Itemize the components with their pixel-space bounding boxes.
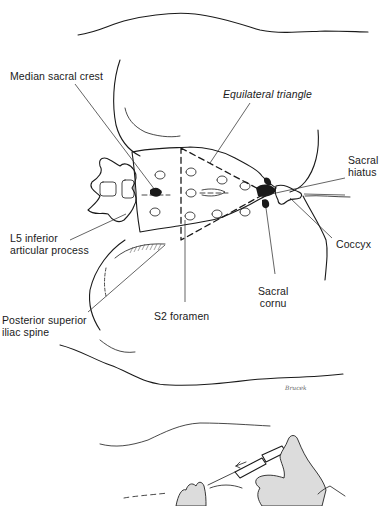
foramen xyxy=(186,189,196,197)
leader-psis xyxy=(88,245,165,312)
label-sacral-hiatus-line1: Sacral xyxy=(348,154,378,166)
median-crest-tubercle xyxy=(202,189,225,196)
leader-coccyx-2 xyxy=(304,194,345,195)
leader-equilateral-triangle xyxy=(210,103,250,163)
foramen xyxy=(212,210,222,218)
needle-path xyxy=(124,493,168,498)
foramen xyxy=(240,208,250,216)
label-l5-line2: articular process xyxy=(10,244,89,256)
artist-signature: Brucek xyxy=(285,384,307,391)
iliac-crest-curve xyxy=(115,244,165,258)
foramen xyxy=(186,168,196,176)
right-buttock xyxy=(290,130,318,192)
label-equilateral-triangle: Equilateral triangle xyxy=(223,88,312,100)
label-sacral-hiatus: Sacral hiatus xyxy=(348,154,378,178)
left-buttock-upper xyxy=(114,60,140,156)
back-contour-lower xyxy=(60,345,343,385)
sacral-cornu-shape xyxy=(262,199,269,208)
label-posterior-superior-iliac-spine: Posterior superior iliac spine xyxy=(2,314,87,338)
iliac-dashed xyxy=(105,268,107,296)
buttock-fold xyxy=(100,340,135,352)
foramen xyxy=(185,212,195,220)
lower-figure-back xyxy=(100,423,270,446)
l5-vertebra xyxy=(88,158,136,222)
left-gloved-fingers xyxy=(176,482,206,506)
label-psis-line1: Posterior superior xyxy=(2,314,87,326)
equilateral-triangle xyxy=(181,148,266,240)
label-sacral-cornu-line1: Sacral xyxy=(258,285,288,297)
left-buttock-inner xyxy=(125,108,180,137)
patient-skin-fold xyxy=(210,485,242,488)
label-median-sacral-crest: Median sacral crest xyxy=(10,70,103,82)
leader-median-sacral-crest xyxy=(75,84,155,190)
gluteal-cleft xyxy=(305,196,350,197)
l5-body xyxy=(100,182,116,196)
back-contour-top xyxy=(78,13,368,35)
label-sacral-cornu-line2: cornu xyxy=(258,297,288,309)
label-l5-inferior-articular-process: L5 inferior articular process xyxy=(10,232,89,256)
label-psis-line2: iliac spine xyxy=(2,326,87,338)
label-coccyx: Coccyx xyxy=(336,238,371,250)
foramen xyxy=(155,171,165,179)
leader-coccyx xyxy=(290,198,332,238)
foramen xyxy=(217,176,227,184)
caudal-block-illustration: Median sacral crest Equilateral triangle… xyxy=(0,0,380,506)
label-s2-foramen: S2 foramen xyxy=(154,310,209,322)
psis-hatching xyxy=(130,244,161,253)
right-gluteal-lower xyxy=(303,196,327,280)
median-crest-hatch xyxy=(150,188,162,197)
label-sacral-hiatus-line2: hiatus xyxy=(348,166,378,178)
leader-sacral-cornu xyxy=(266,208,275,274)
left-buttock-lower xyxy=(89,240,125,330)
sacral-cornu-upper xyxy=(264,177,271,185)
right-gloved-hand xyxy=(256,436,326,506)
foramen xyxy=(150,208,160,216)
label-sacral-cornu: Sacral cornu xyxy=(258,285,288,309)
label-l5-line1: L5 inferior xyxy=(10,232,89,244)
